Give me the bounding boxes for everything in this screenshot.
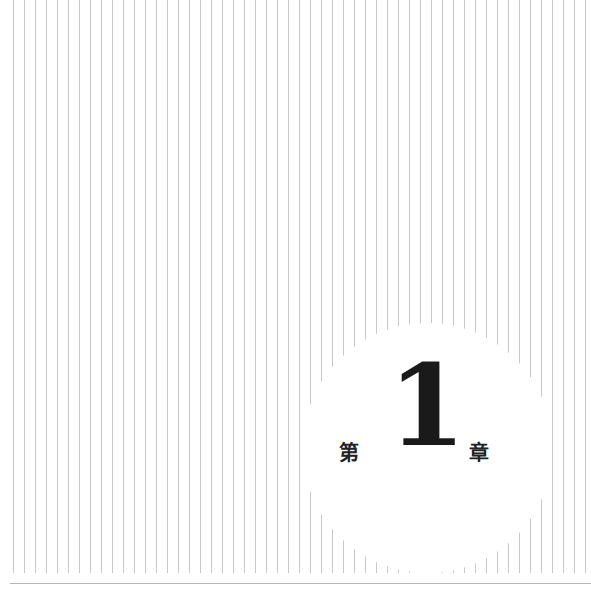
chapter-number: 1 — [388, 350, 466, 462]
vertical-stripe-pattern — [0, 0, 591, 575]
chapter-suffix: 章 — [469, 437, 489, 466]
chapter-prefix: 第 — [339, 437, 359, 466]
bottom-rule — [10, 583, 591, 584]
